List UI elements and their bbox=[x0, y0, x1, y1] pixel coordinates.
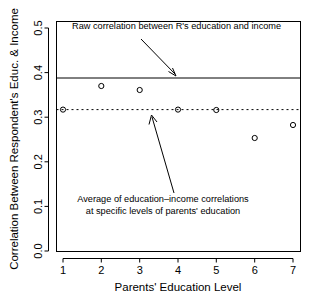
x-tick-label-1: 1 bbox=[60, 264, 66, 276]
x-tick-label-7: 7 bbox=[290, 264, 296, 276]
y-tick-label-5: 0.5 bbox=[32, 20, 44, 35]
y-tick-label-2: 0.2 bbox=[32, 154, 44, 169]
raw-correlation-annotation-text: Raw correlation between R's education an… bbox=[72, 21, 281, 31]
y-tick-label-0: 0.0 bbox=[32, 243, 44, 258]
x-tick-label-4: 4 bbox=[175, 264, 181, 276]
y-tick-label-4: 0.4 bbox=[32, 65, 44, 80]
scatter-plot: 0.0 0.1 0.2 0.3 0.4 0.5 Correlation Betw… bbox=[0, 0, 320, 297]
x-tick-label-3: 3 bbox=[137, 264, 143, 276]
chart-figure: 0.0 0.1 0.2 0.3 0.4 0.5 Correlation Betw… bbox=[0, 0, 320, 297]
average-correlation-annotation-text-line2: at specific levels of parents' education bbox=[86, 206, 240, 216]
y-tick-label-1: 0.1 bbox=[32, 199, 44, 214]
average-correlation-annotation-text-line1: Average of education–income correlations bbox=[77, 194, 249, 204]
x-tick-label-2: 2 bbox=[98, 264, 104, 276]
x-tick-label-5: 5 bbox=[213, 264, 219, 276]
x-axis-title: Parents' Education Level bbox=[115, 281, 242, 293]
y-tick-label-3: 0.3 bbox=[32, 110, 44, 125]
x-tick-label-6: 6 bbox=[252, 264, 258, 276]
y-axis-title: Correlation Between Respondent's Educ. &… bbox=[8, 8, 20, 270]
